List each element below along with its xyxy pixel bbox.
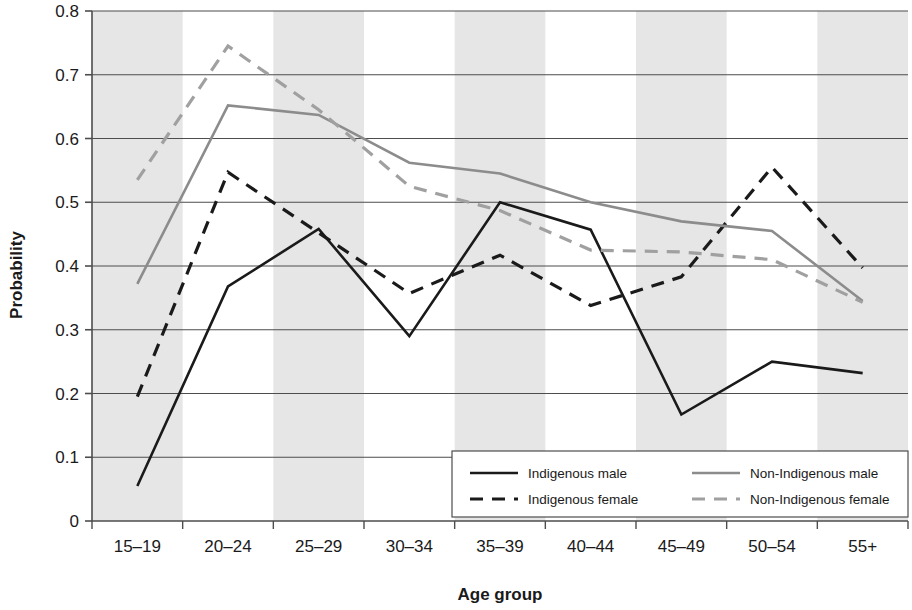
y-tick-label: 0.6 [55,130,79,149]
y-tick-label: 0.1 [55,448,79,467]
legend-label: Non-Indigenous female [750,492,890,507]
legend-box [452,451,908,517]
y-tick-label: 0.7 [55,66,79,85]
y-axis-title: Probability [7,231,26,319]
y-tick-label: 0.2 [55,385,79,404]
x-tick-label: 45–49 [658,537,705,556]
x-tick-label: 35–39 [476,537,523,556]
y-tick-label: 0.8 [55,2,79,21]
y-tick-label: 0 [70,512,79,531]
chart-legend: Indigenous maleIndigenous femaleNon-Indi… [452,451,908,517]
x-axis-title: Age group [458,585,543,604]
y-tick-label: 0.4 [55,257,79,276]
legend-label: Indigenous male [528,466,627,481]
x-tick-label: 50–54 [748,537,795,556]
x-tick-label: 55+ [848,537,877,556]
probability-by-age-group-chart: 00.10.20.30.40.50.60.70.8 15–1920–2425–2… [0,0,912,610]
legend-label: Non-Indigenous male [750,466,878,481]
x-tick-label: 25–29 [295,537,342,556]
x-tick-label: 15–19 [114,537,161,556]
y-axis-tick-labels: 00.10.20.30.40.50.60.70.8 [55,2,79,531]
y-tick-label: 0.3 [55,321,79,340]
legend-label: Indigenous female [528,492,638,507]
x-tick-label: 40–44 [567,537,614,556]
x-tick-label: 30–34 [386,537,433,556]
x-axis-tick-labels: 15–1920–2425–2930–3435–3940–4445–4950–54… [114,537,877,556]
chart-canvas: 00.10.20.30.40.50.60.70.8 15–1920–2425–2… [0,0,912,610]
y-tick-label: 0.5 [55,193,79,212]
x-tick-label: 20–24 [204,537,251,556]
